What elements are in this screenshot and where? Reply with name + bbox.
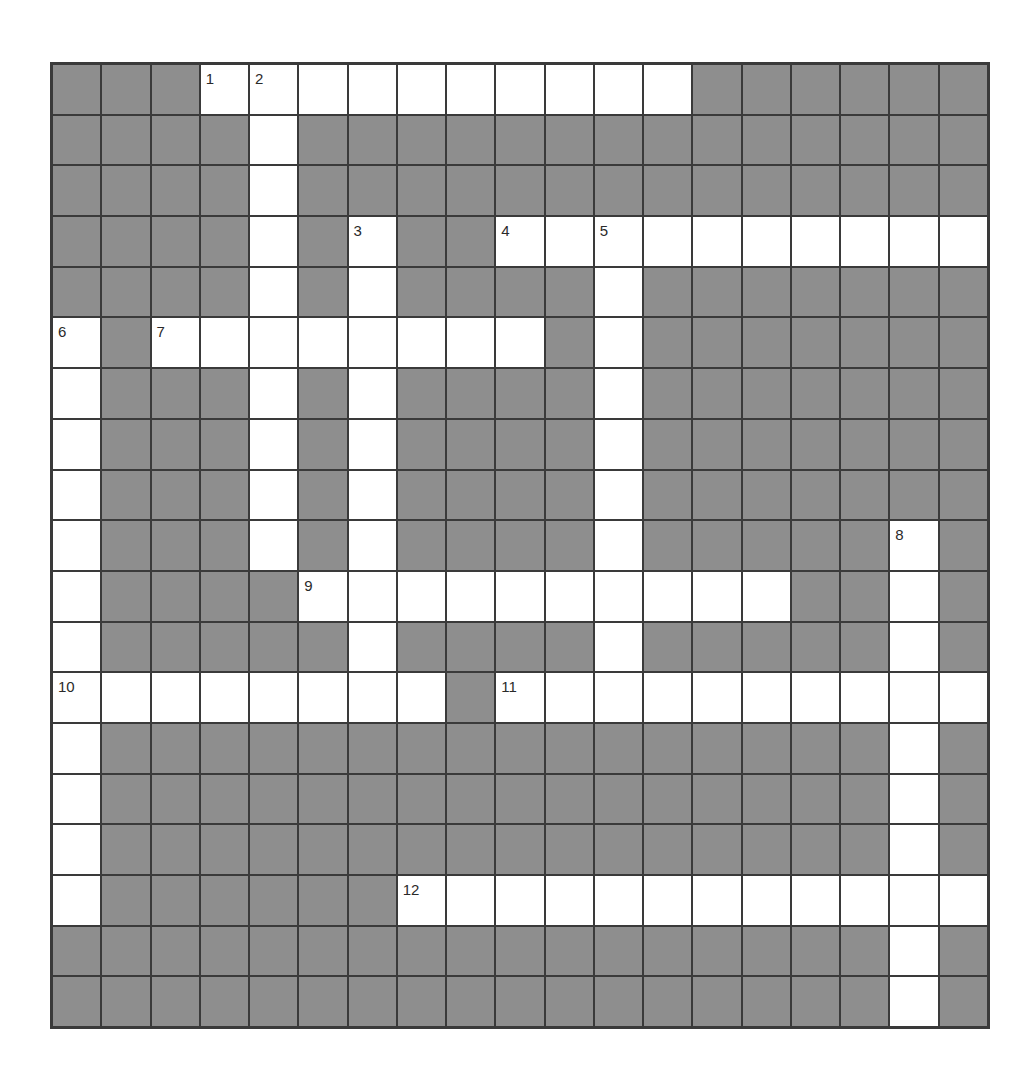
crossword-cell[interactable]: 1: [200, 64, 249, 115]
crossword-cell[interactable]: 11: [495, 672, 544, 723]
crossword-cell[interactable]: [939, 672, 988, 723]
crossword-cell[interactable]: [348, 267, 397, 318]
crossword-cell[interactable]: [791, 672, 840, 723]
crossword-cell[interactable]: [495, 571, 544, 622]
crossword-cell[interactable]: [200, 672, 249, 723]
crossword-cell[interactable]: [840, 875, 889, 926]
crossword-cell[interactable]: [52, 368, 101, 419]
crossword-cell[interactable]: [446, 571, 495, 622]
crossword-cell[interactable]: [348, 419, 397, 470]
crossword-cell[interactable]: [594, 267, 643, 318]
crossword-cell[interactable]: [840, 216, 889, 267]
crossword-cell[interactable]: [151, 672, 200, 723]
crossword-cell[interactable]: [545, 216, 594, 267]
crossword-cell[interactable]: [249, 317, 298, 368]
crossword-cell[interactable]: 8: [889, 520, 938, 571]
crossword-cell[interactable]: [643, 216, 692, 267]
crossword-cell[interactable]: [52, 419, 101, 470]
crossword-cell[interactable]: [348, 368, 397, 419]
crossword-cell[interactable]: [397, 317, 446, 368]
crossword-cell[interactable]: [397, 672, 446, 723]
crossword-cell[interactable]: [692, 672, 741, 723]
crossword-cell[interactable]: [348, 470, 397, 521]
crossword-cell[interactable]: [889, 926, 938, 977]
crossword-cell[interactable]: [200, 317, 249, 368]
crossword-cell[interactable]: [791, 875, 840, 926]
crossword-cell[interactable]: [52, 875, 101, 926]
crossword-cell[interactable]: [249, 672, 298, 723]
crossword-cell[interactable]: 10: [52, 672, 101, 723]
crossword-cell[interactable]: [298, 317, 347, 368]
crossword-cell[interactable]: [939, 875, 988, 926]
crossword-cell[interactable]: 3: [348, 216, 397, 267]
crossword-cell[interactable]: [249, 368, 298, 419]
crossword-cell[interactable]: [742, 672, 791, 723]
crossword-cell[interactable]: [594, 875, 643, 926]
crossword-cell[interactable]: [249, 267, 298, 318]
crossword-cell[interactable]: [249, 419, 298, 470]
crossword-cell[interactable]: [495, 64, 544, 115]
crossword-cell[interactable]: [249, 165, 298, 216]
crossword-cell[interactable]: [545, 64, 594, 115]
crossword-cell[interactable]: [545, 672, 594, 723]
crossword-cell[interactable]: [643, 875, 692, 926]
crossword-cell[interactable]: [348, 622, 397, 673]
crossword-cell[interactable]: [298, 64, 347, 115]
crossword-cell[interactable]: [348, 317, 397, 368]
crossword-cell[interactable]: [692, 571, 741, 622]
crossword-cell[interactable]: [52, 520, 101, 571]
crossword-cell[interactable]: [594, 64, 643, 115]
crossword-cell[interactable]: [52, 824, 101, 875]
crossword-cell[interactable]: [397, 571, 446, 622]
crossword-cell[interactable]: [249, 470, 298, 521]
crossword-cell[interactable]: [446, 64, 495, 115]
crossword-cell[interactable]: [889, 216, 938, 267]
crossword-cell[interactable]: [643, 64, 692, 115]
crossword-cell[interactable]: [446, 875, 495, 926]
crossword-cell[interactable]: [692, 875, 741, 926]
crossword-cell[interactable]: [298, 672, 347, 723]
crossword-cell[interactable]: [348, 520, 397, 571]
crossword-cell[interactable]: 12: [397, 875, 446, 926]
crossword-cell[interactable]: [889, 622, 938, 673]
crossword-cell[interactable]: [52, 470, 101, 521]
crossword-cell[interactable]: 6: [52, 317, 101, 368]
crossword-cell[interactable]: [939, 216, 988, 267]
crossword-cell[interactable]: [594, 672, 643, 723]
crossword-cell[interactable]: [889, 875, 938, 926]
crossword-cell[interactable]: [249, 216, 298, 267]
crossword-cell[interactable]: [545, 571, 594, 622]
crossword-cell[interactable]: [52, 774, 101, 825]
crossword-cell[interactable]: 9: [298, 571, 347, 622]
crossword-cell[interactable]: [545, 875, 594, 926]
crossword-cell[interactable]: [643, 672, 692, 723]
crossword-cell[interactable]: [495, 317, 544, 368]
crossword-cell[interactable]: [889, 672, 938, 723]
crossword-cell[interactable]: 2: [249, 64, 298, 115]
crossword-cell[interactable]: [840, 672, 889, 723]
crossword-cell[interactable]: 7: [151, 317, 200, 368]
crossword-cell[interactable]: [594, 317, 643, 368]
crossword-cell[interactable]: [52, 723, 101, 774]
crossword-cell[interactable]: [889, 571, 938, 622]
crossword-cell[interactable]: [249, 520, 298, 571]
crossword-cell[interactable]: [348, 672, 397, 723]
crossword-cell[interactable]: [52, 622, 101, 673]
crossword-cell[interactable]: [742, 571, 791, 622]
crossword-cell[interactable]: [889, 824, 938, 875]
crossword-cell[interactable]: [889, 774, 938, 825]
crossword-cell[interactable]: [594, 368, 643, 419]
crossword-cell[interactable]: 4: [495, 216, 544, 267]
crossword-cell[interactable]: [594, 571, 643, 622]
crossword-cell[interactable]: [101, 672, 150, 723]
crossword-cell[interactable]: [594, 622, 643, 673]
crossword-cell[interactable]: [889, 976, 938, 1027]
crossword-cell[interactable]: [594, 520, 643, 571]
crossword-cell[interactable]: [889, 723, 938, 774]
crossword-cell[interactable]: [791, 216, 840, 267]
crossword-cell[interactable]: 5: [594, 216, 643, 267]
crossword-cell[interactable]: [495, 875, 544, 926]
crossword-cell[interactable]: [348, 571, 397, 622]
crossword-cell[interactable]: [446, 317, 495, 368]
crossword-cell[interactable]: [397, 64, 446, 115]
